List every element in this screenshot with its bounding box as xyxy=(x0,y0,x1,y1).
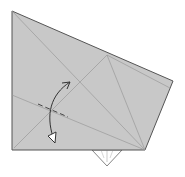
paper-shape xyxy=(12,11,173,150)
bottom-flap xyxy=(92,150,122,166)
origami-diagram xyxy=(0,0,185,177)
